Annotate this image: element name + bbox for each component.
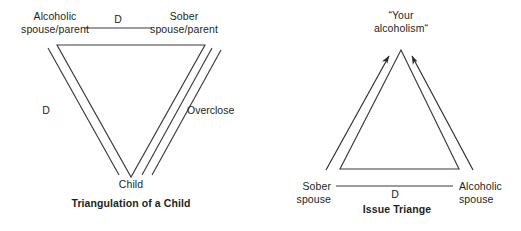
node-sober-parent: Sober spouse/parent — [150, 10, 218, 35]
node-alcoholic-spouse-line-1: Alcoholic — [459, 180, 502, 193]
node-your-alcoholism: “Your alcoholism“ — [374, 9, 428, 34]
node-sober-spouse: Sober spouse — [297, 180, 331, 205]
node-child: Child — [119, 178, 143, 191]
edge-right-arrow-to-alcoholism — [412, 56, 473, 170]
node-alcoholic-spouse-line-2: spouse — [459, 193, 502, 206]
node-sober-spouse-line-2: spouse — [297, 193, 331, 206]
diagram-triangulation-of-a-child: Alcoholic spouse/parent Sober spouse/par… — [0, 0, 261, 231]
node-alcoholic-spouse: Alcoholic spouse — [459, 180, 502, 205]
node-sober-parent-line-1: Sober — [150, 10, 218, 23]
figure-root: Alcoholic spouse/parent Sober spouse/par… — [0, 0, 521, 231]
node-child-line-1: Child — [119, 178, 143, 191]
edge-label-left-d: D — [42, 104, 50, 116]
edge-label-top-d: D — [114, 13, 122, 25]
node-your-alcoholism-line-2: alcoholism“ — [374, 22, 428, 35]
caption-triangulation-of-a-child: Triangulation of a Child — [71, 197, 190, 210]
node-alcoholic-parent-line-2: spouse/parent — [21, 23, 89, 36]
edge-label-bottom-d: D — [391, 188, 399, 200]
node-sober-spouse-line-1: Sober — [297, 180, 331, 193]
triangle-outline — [57, 45, 205, 177]
edge-label-right-overclose: Overclose — [187, 104, 234, 116]
diagram-issue-triangle: “Your alcoholism“ Sober spouse Alcoholic… — [261, 0, 521, 231]
edge-left-d-parallel-line — [48, 48, 119, 175]
node-alcoholic-parent: Alcoholic spouse/parent — [21, 10, 89, 35]
edge-left-arrow-to-alcoholism — [326, 56, 389, 170]
node-sober-parent-line-2: spouse/parent — [150, 23, 218, 36]
node-your-alcoholism-line-1: “Your — [374, 9, 428, 22]
caption-issue-triangle: Issue Triange — [363, 203, 431, 216]
node-alcoholic-parent-line-1: Alcoholic — [21, 10, 89, 23]
